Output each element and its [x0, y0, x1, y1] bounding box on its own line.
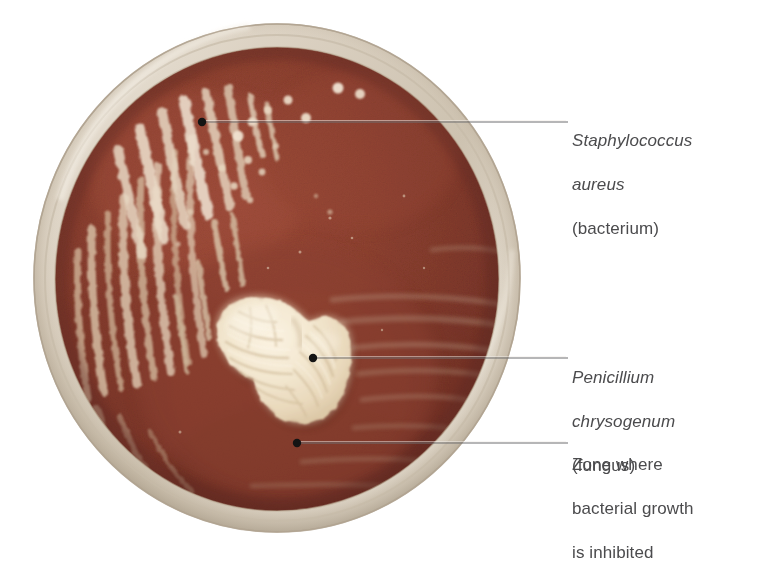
label-inhibition-zone: Zone where bacterial growth is inhibited: [572, 432, 694, 562]
label-staphylococcus-line3: (bacterium): [572, 218, 692, 240]
label-penicillium-line2: chrysogenum: [572, 411, 675, 433]
label-zone-line3: is inhibited: [572, 542, 694, 562]
label-zone-line2: bacterial growth: [572, 498, 694, 520]
label-zone-line1: Zone where: [572, 454, 694, 476]
label-staphylococcus-line2: aureus: [572, 174, 692, 196]
label-staphylococcus-aureus: Staphylococcus aureus (bacterium): [572, 108, 692, 262]
label-penicillium-line1: Penicillium: [572, 367, 675, 389]
label-staphylococcus-line1: Staphylococcus: [572, 130, 692, 152]
petri-dish-photo: [0, 0, 560, 546]
